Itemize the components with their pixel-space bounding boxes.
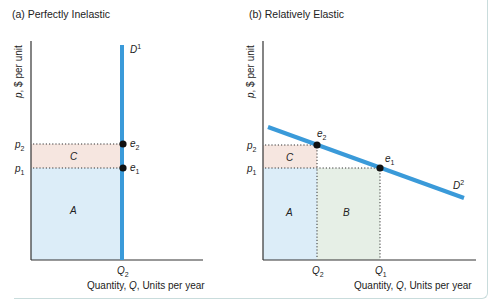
point-e1-b (376, 164, 383, 171)
x-axis-label-b: Quantity, Q, Units per year (354, 280, 472, 291)
point-label-e2-b: e2 (317, 128, 327, 141)
point-e2-a (119, 140, 126, 147)
quantity-label-q2-a: Q2 (117, 265, 129, 278)
region-label-a-a: A (69, 205, 77, 216)
price-label-p1-b: p1 (246, 163, 257, 176)
demand-label-d1: D1 (130, 43, 141, 55)
region-label-c-b: C (286, 152, 294, 163)
y-axis-label-b: p, $ per unit (245, 45, 256, 99)
panel-a (31, 41, 203, 260)
price-label-p2-b: p2 (246, 140, 257, 153)
x-axis-label-a: Quantity, Q, Units per year (87, 280, 205, 291)
region-label-b-b: B (343, 207, 350, 218)
point-label-e1-a: e1 (130, 162, 140, 175)
quantity-label-q1-b: Q1 (375, 265, 387, 278)
point-label-e1-b: e1 (385, 153, 395, 166)
point-e2-b (313, 141, 320, 148)
price-label-p1-a: p1 (14, 163, 25, 176)
price-label-p2-a: p2 (14, 139, 25, 152)
demand-label-d2: D2 (453, 179, 464, 191)
point-e1-a (119, 164, 126, 171)
diagram-canvas: p, $ per unit D1 p2 p1 e2 e1 C A Q2 Quan… (0, 0, 494, 308)
panel-b (263, 41, 476, 260)
region-label-c-a: C (70, 151, 78, 162)
quantity-label-q2-b: Q2 (312, 265, 324, 278)
region-label-a-b: A (285, 207, 293, 218)
point-label-e2-a: e2 (130, 138, 140, 151)
y-axis-label-a: p, $ per unit (13, 45, 24, 99)
